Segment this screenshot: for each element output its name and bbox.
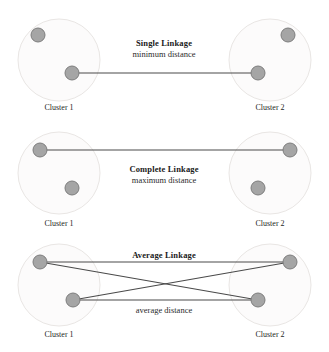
panel-title-single-linkage: Single Linkage	[136, 38, 192, 48]
linkage-diagram-canvas: Single Linkageminimum distanceCluster 1C…	[0, 0, 329, 352]
data-point-c2-p2	[251, 181, 265, 195]
cluster-label-complete-linkage-cluster-1: Cluster 1	[44, 219, 73, 228]
annotation-average-distance-annotation: average distance	[136, 305, 193, 315]
data-point-c2-p1	[283, 143, 297, 157]
panel-complete-linkage: Complete Linkagemaximum distanceCluster …	[18, 132, 311, 228]
cluster-ring-cluster-2	[229, 19, 311, 101]
panel-title-average-linkage: Average Linkage	[132, 250, 196, 260]
panel-single-linkage: Single Linkageminimum distanceCluster 1C…	[18, 19, 311, 112]
data-point-c1-p2	[65, 66, 79, 80]
cluster-ring-cluster-1	[18, 132, 100, 214]
panel-subtitle-single-linkage: minimum distance	[132, 49, 195, 59]
data-point-c1-p2	[65, 181, 79, 195]
data-point-c1-p1	[31, 28, 45, 42]
cluster-ring-cluster-1	[18, 19, 100, 101]
data-point-c1-p1	[33, 143, 47, 157]
data-point-c2-p2	[251, 66, 265, 80]
cluster-label-average-linkage-cluster-1: Cluster 1	[44, 330, 73, 339]
cluster-label-single-linkage-cluster-2: Cluster 2	[255, 103, 284, 112]
cluster-label-single-linkage-cluster-1: Cluster 1	[44, 103, 73, 112]
panel-average-linkage: Average LinkageCluster 1Cluster 2average…	[18, 244, 311, 339]
panel-title-complete-linkage: Complete Linkage	[129, 164, 198, 174]
data-point-c1-p1	[33, 255, 47, 269]
linkage-diagram-figure: Single Linkageminimum distanceCluster 1C…	[0, 0, 329, 352]
panel-subtitle-complete-linkage: maximum distance	[132, 175, 197, 185]
data-point-c2-p2	[251, 293, 265, 307]
data-point-c2-p1	[283, 255, 297, 269]
panels-root: Single Linkageminimum distanceCluster 1C…	[18, 19, 311, 339]
cluster-ring-cluster-2	[229, 244, 311, 326]
cluster-ring-cluster-2	[229, 132, 311, 214]
cluster-label-average-linkage-cluster-2: Cluster 2	[255, 330, 284, 339]
cluster-label-complete-linkage-cluster-2: Cluster 2	[255, 219, 284, 228]
data-point-c2-p1	[281, 28, 295, 42]
cluster-ring-cluster-1	[18, 244, 100, 326]
data-point-c1-p2	[66, 293, 80, 307]
